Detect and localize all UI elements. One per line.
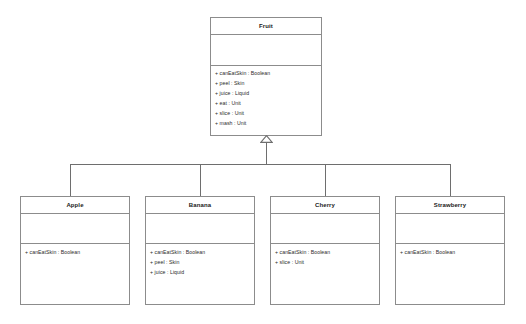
member-row: + slice : Unit [215,109,317,119]
attributes-compartment-cherry [271,214,379,244]
class-name-cherry: Cherry [271,197,379,214]
operations-compartment-fruit: + canEatSkin : Boolean + peel : Skin + j… [211,66,321,135]
generalization-bus [70,164,451,165]
class-box-banana[interactable]: Banana + canEatSkin : Boolean + peel : S… [145,196,255,305]
class-box-cherry[interactable]: Cherry + canEatSkin : Boolean + slice : … [270,196,380,305]
member-row: + mash : Unit [215,119,317,129]
attributes-compartment-fruit [211,35,321,66]
member-row: + peel : Skin [150,258,250,268]
member-row: + canEatSkin : Boolean [275,248,375,258]
member-row: + eat : Unit [215,99,317,109]
attributes-compartment-banana [146,214,254,244]
attributes-compartment-apple [21,214,129,244]
attributes-compartment-strawberry [396,214,504,244]
class-name-fruit: Fruit [211,18,321,35]
operations-compartment-cherry: + canEatSkin : Boolean + slice : Unit [271,244,379,304]
generalization-drop-banana [200,164,201,196]
generalization-drop-apple [70,164,71,196]
class-box-fruit[interactable]: Fruit + canEatSkin : Boolean + peel : Sk… [210,17,322,136]
generalization-drop-cherry [325,164,326,196]
member-row: + canEatSkin : Boolean [215,69,317,79]
class-box-strawberry[interactable]: Strawberry + canEatSkin : Boolean [395,196,505,305]
generalization-stem [266,142,267,164]
operations-compartment-apple: + canEatSkin : Boolean [21,244,129,304]
class-name-apple: Apple [21,197,129,214]
class-name-strawberry: Strawberry [396,197,504,214]
member-row: + juice : Liquid [150,268,250,278]
member-row: + juice : Liquid [215,89,317,99]
member-row: + slice : Unit [275,258,375,268]
member-row: + canEatSkin : Boolean [150,248,250,258]
member-row: + canEatSkin : Boolean [400,248,500,258]
uml-class-diagram-canvas: Fruit + canEatSkin : Boolean + peel : Sk… [0,0,526,324]
class-box-apple[interactable]: Apple + canEatSkin : Boolean [20,196,130,305]
member-row: + peel : Skin [215,79,317,89]
class-name-banana: Banana [146,197,254,214]
generalization-drop-strawberry [450,164,451,196]
operations-compartment-banana: + canEatSkin : Boolean + peel : Skin + j… [146,244,254,304]
operations-compartment-strawberry: + canEatSkin : Boolean [396,244,504,304]
member-row: + canEatSkin : Boolean [25,248,125,258]
